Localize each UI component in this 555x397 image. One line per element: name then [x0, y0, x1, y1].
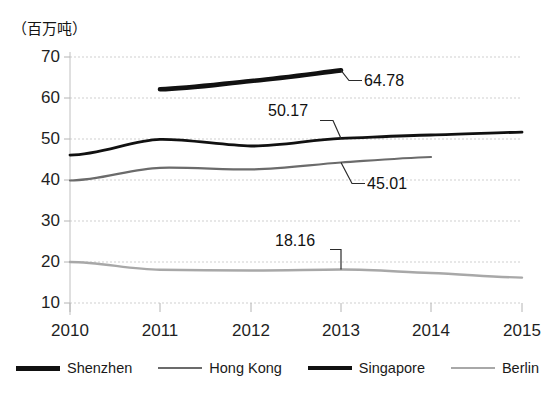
legend-label-shenzhen: Shenzhen: [67, 360, 132, 376]
legend-swatch-shenzhen: [16, 366, 60, 371]
legend-item-berlin[interactable]: Berlin: [451, 360, 539, 376]
y-axis-label-70: 70: [14, 47, 60, 67]
legend-swatch-hongkong: [158, 367, 202, 369]
data-label-singapore: 50.17: [268, 102, 308, 120]
chart-legend: Shenzhen Hong Kong Singapore Berlin: [0, 352, 555, 384]
y-axis-label-10: 10: [14, 293, 60, 313]
x-axis-label-2010: 2010: [35, 321, 105, 341]
x-axis-label-2013: 2013: [306, 321, 376, 341]
legend-label-berlin: Berlin: [502, 360, 539, 376]
legend-item-singapore[interactable]: Singapore: [308, 360, 425, 376]
y-axis-label-40: 40: [14, 170, 60, 190]
legend-item-shenzhen[interactable]: Shenzhen: [16, 360, 132, 376]
gridlines: [70, 57, 522, 303]
legend-label-singapore: Singapore: [359, 360, 425, 376]
series-berlin: [70, 262, 522, 278]
data-label-hongkong: 45.01: [367, 175, 407, 193]
y-axis-label-30: 30: [14, 211, 60, 231]
legend-swatch-berlin: [451, 367, 495, 369]
x-axis-label-2014: 2014: [396, 321, 466, 341]
x-axis-label-2011: 2011: [125, 321, 195, 341]
series-singapore: [70, 132, 522, 155]
legend-swatch-singapore: [308, 366, 352, 370]
legend-item-hongkong[interactable]: Hong Kong: [158, 360, 282, 376]
y-axis-label-60: 60: [14, 88, 60, 108]
axis-lines: [64, 52, 522, 315]
data-label-berlin: 18.16: [275, 232, 315, 250]
legend-label-hongkong: Hong Kong: [209, 360, 282, 376]
y-axis-label-50: 50: [14, 129, 60, 149]
y-axis-label-20: 20: [14, 252, 60, 272]
x-axis-label-2012: 2012: [216, 321, 286, 341]
callout-leader-lines: [320, 70, 365, 269]
line-chart: （百万吨）: [0, 0, 555, 397]
data-label-shenzhen: 64.78: [364, 72, 404, 90]
x-axis-label-2015: 2015: [487, 321, 555, 341]
